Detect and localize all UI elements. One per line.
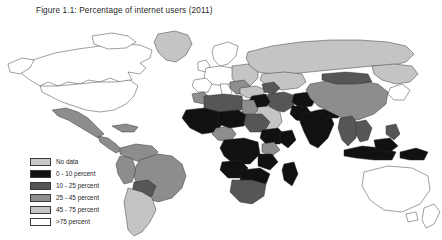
region-vietnam — [356, 120, 372, 142]
region-caribbean — [112, 124, 138, 132]
region-myanmar-thailand — [338, 116, 358, 146]
region-korea-japan — [388, 84, 410, 100]
region-philippines — [386, 124, 400, 140]
region-peru — [116, 156, 136, 184]
region-central-america — [98, 136, 122, 153]
legend-label-10-25: 10 - 25 percent — [56, 182, 99, 190]
region-madagascar — [282, 162, 298, 186]
legend-item-over-75: >75 percent — [30, 216, 118, 228]
region-greenland — [154, 31, 192, 62]
region-new-zealand — [422, 204, 440, 228]
legend-item-no-data: No data — [30, 156, 118, 168]
region-australia — [362, 166, 430, 212]
region-tanzania — [258, 154, 278, 170]
region-papua-new-guinea — [400, 148, 428, 160]
legend-item-25-45: 25 - 45 percent — [30, 192, 118, 204]
region-tasmania — [406, 212, 418, 222]
region-south-africa — [230, 180, 266, 204]
legend-swatch-25-45 — [30, 194, 51, 202]
map-legend: No data 0 - 10 percent 10 - 25 percent 2… — [30, 156, 118, 228]
world-choropleth-map: No data 0 - 10 percent 10 - 25 percent 2… — [0, 22, 442, 240]
region-borneo — [374, 138, 398, 152]
legend-item-45-75: 45 - 75 percent — [30, 204, 118, 216]
legend-label-no-data: No data — [56, 158, 78, 166]
legend-item-0-10: 0 - 10 percent — [30, 168, 118, 180]
region-siberia-east — [372, 64, 418, 84]
legend-label-0-10: 0 - 10 percent — [56, 170, 95, 178]
figure-title: Figure 1.1: Percentage of internet users… — [36, 5, 213, 16]
legend-swatch-over-75 — [30, 218, 51, 226]
region-canada — [20, 44, 152, 86]
legend-item-10-25: 10 - 25 percent — [30, 180, 118, 192]
region-mexico — [52, 108, 104, 138]
region-somalia — [280, 130, 296, 148]
legend-swatch-no-data — [30, 158, 51, 166]
region-scandinavia — [212, 42, 238, 66]
legend-swatch-45-75 — [30, 206, 51, 214]
legend-label-over-75: >75 percent — [56, 218, 90, 226]
figure-container: Figure 1.1: Percentage of internet users… — [0, 0, 442, 240]
legend-swatch-10-25 — [30, 182, 51, 190]
legend-label-45-75: 45 - 75 percent — [56, 206, 99, 214]
legend-label-25-45: 25 - 45 percent — [56, 194, 99, 202]
region-mongolia — [322, 72, 372, 84]
legend-swatch-0-10 — [30, 170, 51, 178]
